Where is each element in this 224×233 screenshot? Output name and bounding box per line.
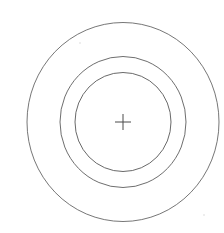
- concentric-circles-diagram: [0, 0, 224, 233]
- diagram-background: [0, 0, 224, 233]
- figure-canvas: [0, 0, 224, 233]
- paper-speck: [79, 42, 81, 44]
- paper-speck: [203, 214, 205, 216]
